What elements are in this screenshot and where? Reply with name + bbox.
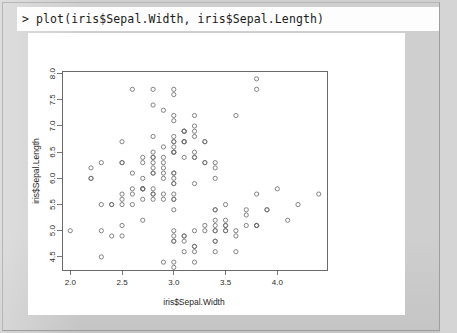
data-point (203, 140, 207, 144)
data-point (151, 161, 155, 165)
y-axis-tick-labels: 4.55.05.56.06.57.07.58.0 (49, 68, 58, 263)
y-tick-label: 6.0 (49, 172, 58, 184)
data-point (172, 239, 176, 243)
data-point (172, 197, 176, 201)
data-point (244, 208, 248, 212)
data-point (172, 140, 176, 144)
data-point (161, 176, 165, 180)
data-point (172, 192, 176, 196)
data-point (192, 260, 196, 264)
data-point (120, 192, 124, 196)
x-tick-label: 2.0 (65, 278, 77, 287)
data-point (99, 255, 103, 259)
data-point (265, 208, 269, 212)
y-tick-label: 7.0 (49, 120, 58, 132)
data-point (172, 92, 176, 96)
plot-box (62, 71, 327, 270)
data-point (255, 87, 259, 91)
data-point (296, 202, 300, 206)
data-point (172, 87, 176, 91)
data-point (141, 155, 145, 159)
data-point (317, 192, 321, 196)
data-point (151, 103, 155, 107)
data-point (130, 202, 134, 206)
data-point (192, 129, 196, 133)
data-point (151, 192, 155, 196)
data-point (192, 229, 196, 233)
data-point (213, 229, 217, 233)
data-point (172, 176, 176, 180)
r-console-strip[interactable]: > plot(iris$Sepal.Width, iris$Sepal.Leng… (17, 7, 440, 31)
data-point (161, 171, 165, 175)
data-point (151, 134, 155, 138)
y-tick-label: 5.0 (49, 225, 58, 237)
data-point (151, 166, 155, 170)
data-point (192, 155, 196, 159)
data-point (213, 223, 217, 227)
data-point (203, 229, 207, 233)
plot-panel: 2.02.53.03.54.0 4.55.05.56.06.57.07.58.0… (28, 33, 405, 315)
data-point (151, 187, 155, 191)
data-point (151, 87, 155, 91)
data-point (192, 124, 196, 128)
x-tick-label: 3.5 (220, 278, 232, 287)
data-point (192, 150, 196, 154)
data-point (213, 166, 217, 170)
data-point (161, 197, 165, 201)
data-point (182, 239, 186, 243)
data-point (151, 197, 155, 201)
data-point (99, 161, 103, 165)
data-point (120, 223, 124, 227)
data-point (89, 176, 93, 180)
data-point (161, 260, 165, 264)
data-point (234, 113, 238, 117)
data-point (161, 145, 165, 149)
data-point (141, 187, 145, 191)
data-point (172, 134, 176, 138)
data-point (234, 250, 238, 254)
data-point (120, 234, 124, 238)
data-point (244, 213, 248, 217)
data-point (213, 208, 217, 212)
data-point (172, 113, 176, 117)
r-graphics-window: > plot(iris$Sepal.Width, iris$Sepal.Leng… (0, 0, 457, 333)
data-point (213, 218, 217, 222)
data-point (120, 161, 124, 165)
x-tick-label: 2.5 (116, 278, 128, 287)
data-point (172, 181, 176, 185)
data-point (151, 171, 155, 175)
data-point (255, 77, 259, 81)
y-tick-label: 4.5 (49, 251, 58, 263)
data-point (130, 171, 134, 175)
data-point (120, 202, 124, 206)
console-command-line: > plot(iris$Sepal.Width, iris$Sepal.Leng… (22, 12, 324, 26)
data-point (151, 150, 155, 154)
data-point (223, 229, 227, 233)
x-axis-ticks (70, 270, 277, 275)
data-point (161, 166, 165, 170)
data-point (182, 140, 186, 144)
data-point (244, 223, 248, 227)
data-point (141, 176, 145, 180)
data-point (192, 113, 196, 117)
x-tick-label: 4.0 (272, 278, 284, 287)
data-point (172, 234, 176, 238)
x-axis-title: iris$Sepal.Width (163, 297, 225, 307)
data-point (130, 192, 134, 196)
data-points (68, 77, 321, 270)
data-point (120, 140, 124, 144)
data-point (130, 187, 134, 191)
data-point (68, 229, 72, 233)
data-point (192, 181, 196, 185)
x-tick-label: 3.0 (168, 278, 180, 287)
data-point (161, 161, 165, 165)
data-point (213, 239, 217, 243)
data-point (172, 260, 176, 264)
data-point (130, 87, 134, 91)
data-point (99, 202, 103, 206)
data-point (192, 134, 196, 138)
data-point (120, 197, 124, 201)
data-point (192, 244, 196, 248)
data-point (182, 234, 186, 238)
data-point (223, 223, 227, 227)
